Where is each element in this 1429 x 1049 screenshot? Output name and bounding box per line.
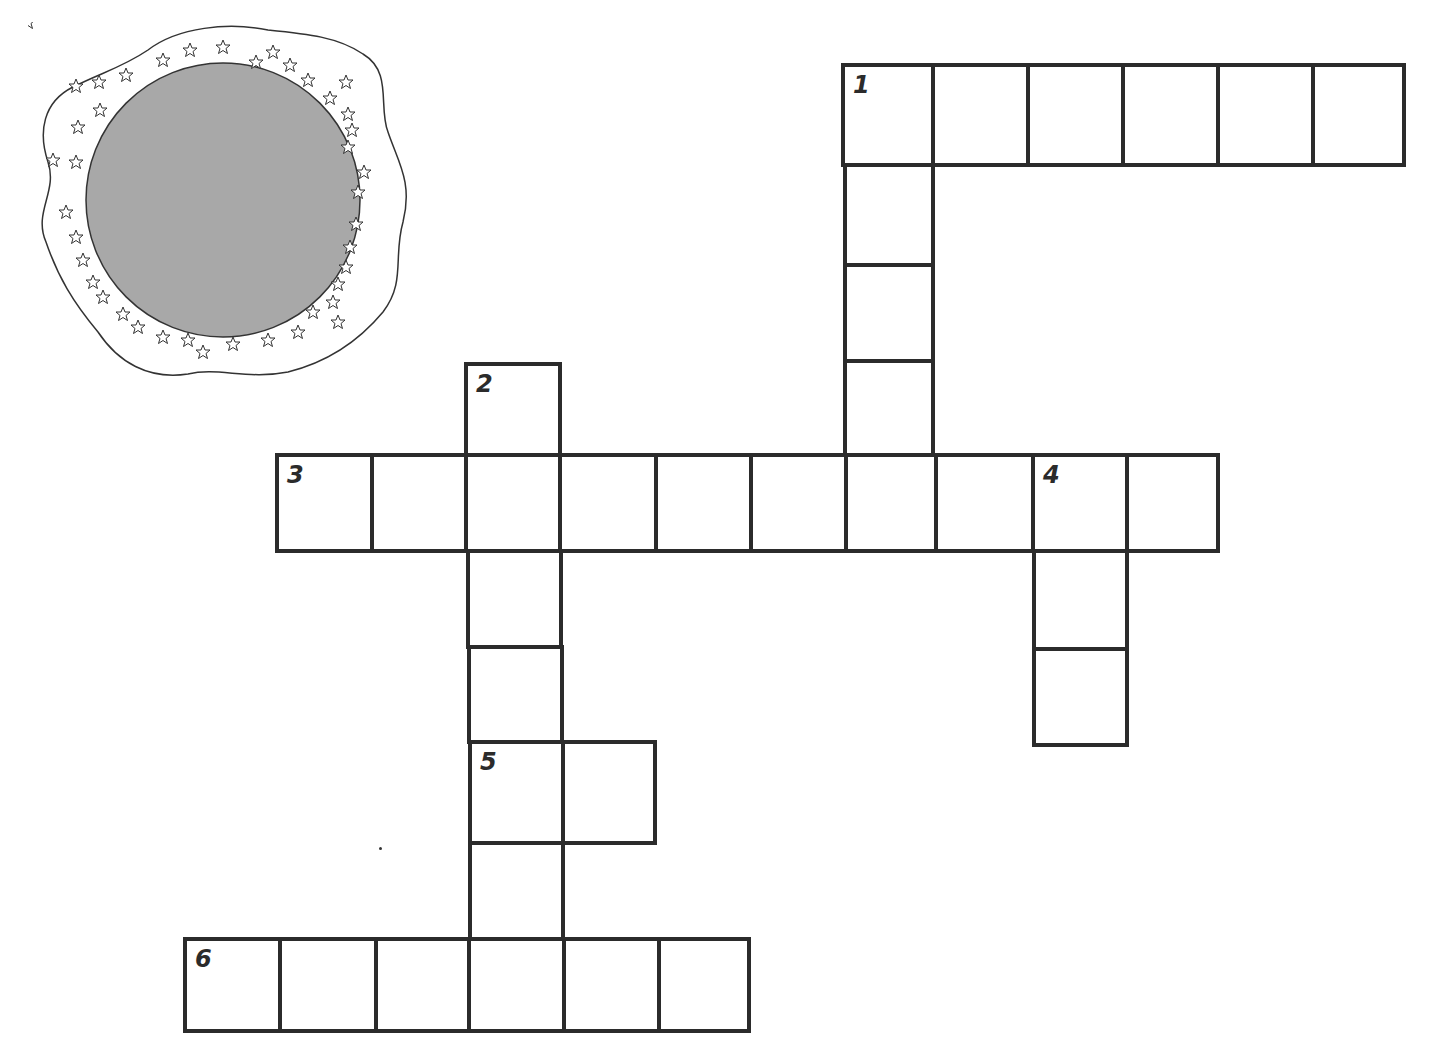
cell-1down-2[interactable]: [843, 163, 935, 267]
moon-circle: [86, 63, 360, 337]
cell-4down-3[interactable]: [1032, 647, 1129, 747]
cell-2down-3[interactable]: [466, 549, 563, 649]
clue-number: 4: [1043, 463, 1060, 487]
cell-6across-2[interactable]: [278, 937, 378, 1033]
cell-6across-3[interactable]: [374, 937, 471, 1033]
cell-2down-6[interactable]: [468, 841, 565, 941]
cell-5across-2[interactable]: [561, 740, 657, 845]
cell-4down-2[interactable]: [1032, 549, 1129, 651]
cell-2down-1[interactable]: 2: [464, 362, 562, 457]
clue-number: 5: [480, 750, 497, 774]
cell-1across-1[interactable]: 1: [841, 63, 935, 167]
cell-1across-6[interactable]: [1311, 63, 1406, 167]
stray-dot: [379, 847, 382, 850]
cell-3across-8[interactable]: [934, 453, 1035, 553]
cell-1down-4[interactable]: [843, 359, 935, 457]
cell-1across-4[interactable]: [1121, 63, 1220, 167]
cell-6across-6[interactable]: [657, 937, 751, 1033]
clue-number: 6: [195, 947, 212, 971]
cell-1across-5[interactable]: [1216, 63, 1315, 167]
cell-3across-5[interactable]: [654, 453, 753, 553]
cell-5across-1[interactable]: 5: [468, 740, 565, 845]
cell-1across-2[interactable]: [931, 63, 1030, 167]
cell-3across-10[interactable]: [1125, 453, 1220, 553]
moon-stars-illustration: [28, 22, 413, 382]
clue-number: 1: [853, 73, 870, 97]
clue-number: 3: [287, 463, 304, 487]
cell-3across-6[interactable]: [749, 453, 848, 553]
cell-3across-7[interactable]: [844, 453, 938, 553]
cell-6across-5[interactable]: [562, 937, 661, 1033]
cell-3across-1[interactable]: 3: [275, 453, 374, 553]
cell-1down-3[interactable]: [843, 263, 935, 363]
cell-3across-4[interactable]: [558, 453, 658, 553]
cell-2down-4[interactable]: [467, 645, 564, 744]
clue-number: 2: [476, 372, 493, 396]
cell-3across-2[interactable]: [370, 453, 468, 553]
cell-6across-4[interactable]: [467, 937, 566, 1033]
cell-3across-3[interactable]: [464, 453, 562, 553]
cell-6across-1[interactable]: 6: [183, 937, 282, 1033]
cell-3across-9[interactable]: 4: [1031, 453, 1129, 553]
cell-1across-3[interactable]: [1026, 63, 1125, 167]
